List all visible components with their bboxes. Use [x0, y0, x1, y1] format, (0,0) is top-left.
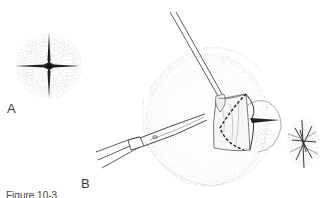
figure-caption: Figure 10-3	[6, 191, 57, 198]
surgical-illustration	[0, 0, 336, 198]
panel-label-b: B	[81, 177, 90, 190]
panel-a-stoma	[15, 33, 82, 99]
panel-b-stoma	[143, 48, 270, 188]
panel-label-a: A	[7, 102, 16, 115]
stellate-scar	[287, 116, 319, 168]
